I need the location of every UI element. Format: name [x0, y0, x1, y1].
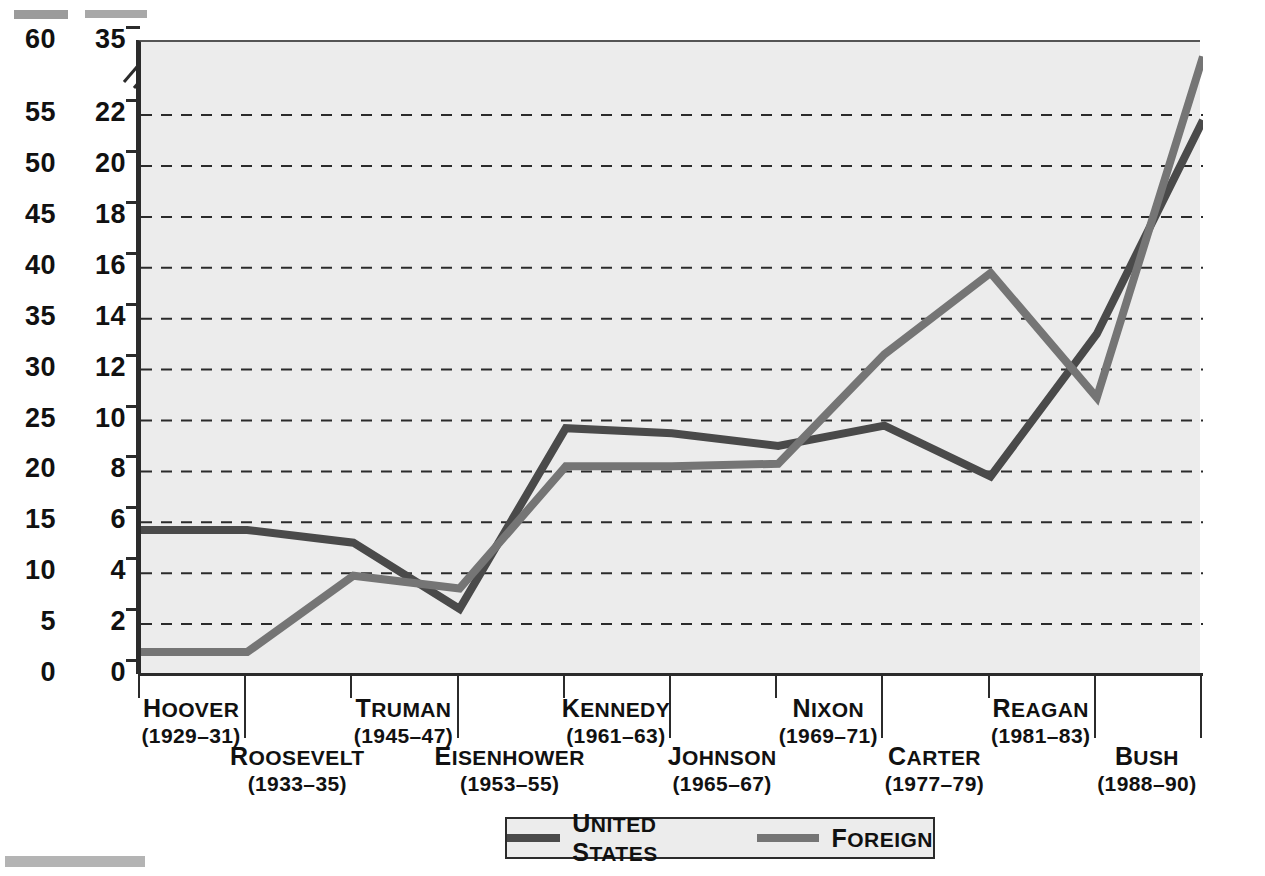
left-axis-tick-35: 35 [25, 303, 56, 330]
inner-axis-tick-10: 10 [95, 405, 126, 432]
left-axis-tick-40: 40 [25, 252, 56, 279]
gridlines [141, 115, 1203, 624]
inner-axis-tickmark-14 [126, 303, 140, 306]
left-axis-tick-15: 15 [25, 506, 56, 533]
data-series-group [141, 57, 1203, 653]
inner-axis-tickmark-12 [126, 354, 140, 357]
x-label-bush: BUSH(1988–90) [1037, 742, 1257, 796]
inner-axis-tickmark-8 [126, 455, 140, 458]
left-axis-tick-55: 55 [25, 99, 56, 126]
plot-canvas [141, 42, 1203, 675]
legend-swatch-united-states [507, 834, 560, 842]
chart-legend: UNITED STATES FOREIGN [505, 817, 935, 859]
left-axis-tick-0: 0 [40, 659, 56, 686]
series-line-foreign [141, 57, 1203, 653]
inner-axis-tick-16: 16 [95, 252, 126, 279]
left-axis-tick-30: 30 [25, 354, 56, 381]
left-axis-tick-20: 20 [25, 455, 56, 482]
legend-item-united-states: UNITED STATES [507, 809, 723, 867]
legend-label-foreign: FOREIGN [831, 824, 933, 853]
inner-axis-tick-14: 14 [95, 303, 126, 330]
inner-axis-tick-18: 18 [95, 201, 126, 228]
inner-axis-tick-0: 0 [110, 659, 126, 686]
left-axis-tick-5: 5 [40, 608, 56, 635]
inner-axis-tickmark-16 [126, 252, 140, 255]
legend-item-foreign: FOREIGN [757, 824, 933, 853]
x-tick-right-edge [1200, 676, 1202, 738]
x-label-nixon: NIXON(1969–71) [718, 694, 938, 748]
inner-axis-tickmark-10 [126, 405, 140, 408]
inner-axis-tick-22: 22 [95, 99, 126, 126]
inner-axis-tick-20: 20 [95, 150, 126, 177]
plot-area [138, 40, 1200, 673]
inner-axis-tick-12: 12 [95, 354, 126, 381]
x-label-carter: CARTER(1977–79) [825, 742, 1045, 796]
series-line-united-states [141, 120, 1203, 609]
left-axis-tick-50: 50 [25, 150, 56, 177]
left-axis-tick-10: 10 [25, 557, 56, 584]
inner-axis-tick-6: 6 [110, 506, 126, 533]
inner-axis-tickmark-4 [126, 557, 140, 560]
x-label-eisenhower: EISENHOWER(1953–55) [400, 742, 620, 796]
left-axis-tick-45: 45 [25, 201, 56, 228]
inner-axis-tickmark-0 [126, 659, 140, 662]
inner-axis-tickmark-35 [126, 26, 140, 29]
chart-root: 605550454035302520151050 352220181614121… [0, 0, 1265, 876]
inner-axis-tickmark-20 [126, 150, 140, 153]
x-label-reagan: REAGAN(1981–83) [931, 694, 1151, 748]
left-axis-tick-60: 60 [25, 26, 56, 53]
x-label-roosevelt: ROOSEVELT(1933–35) [187, 742, 407, 796]
scan-artifact-bar-top-right [85, 10, 147, 18]
inner-axis-tick-8: 8 [110, 455, 126, 482]
x-label-truman: TRUMAN(1945–47) [294, 694, 514, 748]
inner-axis-tickmark-22 [126, 99, 140, 102]
inner-axis-tickmark-6 [126, 506, 140, 509]
scan-artifact-bar-bottom-left [5, 856, 145, 867]
inner-axis-tickmark-18 [126, 201, 140, 204]
inner-axis-tick-4: 4 [110, 557, 126, 584]
legend-swatch-foreign [757, 834, 819, 842]
inner-axis-tickmark-2 [126, 608, 140, 611]
x-label-hoover: HOOVER(1929–31) [81, 694, 301, 748]
legend-label-united-states: UNITED STATES [572, 809, 723, 867]
x-label-johnson: JOHNSON(1965–67) [612, 742, 832, 796]
x-label-kennedy: KENNEDY(1961–63) [506, 694, 726, 748]
inner-axis-tick-2: 2 [110, 608, 126, 635]
left-axis-tick-25: 25 [25, 405, 56, 432]
scan-artifact-bar-top-left [14, 10, 68, 19]
